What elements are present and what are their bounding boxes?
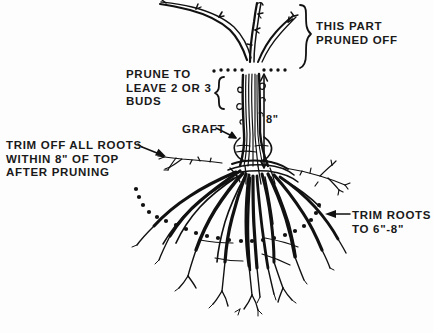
label-height-dimension-8in: 8" — [266, 113, 279, 127]
label-line-1: PRUNE TO — [126, 68, 191, 80]
label-line-2: PRUNED OFF — [316, 34, 398, 46]
label-line-3: AFTER PRUNING — [6, 166, 110, 178]
pruning-diagram-figure: THIS PARTPRUNED OFF PRUNE TOLEAVE 2 OR 3… — [0, 0, 433, 333]
top-branches-group — [160, 0, 298, 62]
roots-right-group — [262, 174, 338, 262]
right-lateral-root — [285, 160, 350, 195]
label-line-1: THIS PART — [316, 20, 382, 32]
label-line-1: TRIM OFF ALL ROOTS — [6, 139, 142, 151]
brace-left-icon — [215, 77, 224, 109]
arrow-trim-off-icon — [138, 144, 166, 157]
label-trim-roots-to: TRIM ROOTSTO 6"-8" — [352, 209, 431, 236]
roots-left-group — [154, 171, 249, 266]
label-line-1: GRAFT — [182, 123, 225, 135]
label-line-1: TRIM ROOTS — [352, 209, 431, 221]
label-line-2: TO 6"-8" — [352, 223, 404, 235]
arrow-trim-roots-icon — [325, 210, 350, 218]
label-this-part-pruned-off: THIS PARTPRUNED OFF — [316, 20, 398, 47]
root-tips-group — [132, 226, 346, 316]
label-line-2: LEAVE 2 OR 3 — [126, 82, 212, 94]
brace-right-icon — [300, 5, 311, 68]
label-line-2: WITHIN 8" OF TOP — [6, 153, 119, 165]
label-graft: GRAFT — [182, 123, 225, 137]
label-line-3: BUDS — [126, 95, 161, 107]
dimension-value: 8" — [266, 113, 279, 125]
label-prune-to-leave-buds: PRUNE TOLEAVE 2 OR 3BUDS — [126, 68, 212, 109]
label-trim-off-all-roots: TRIM OFF ALL ROOTSWITHIN 8" OF TOPAFTER … — [6, 139, 142, 180]
left-lateral-root — [158, 154, 222, 170]
dotted-cut-line-top — [212, 68, 286, 72]
